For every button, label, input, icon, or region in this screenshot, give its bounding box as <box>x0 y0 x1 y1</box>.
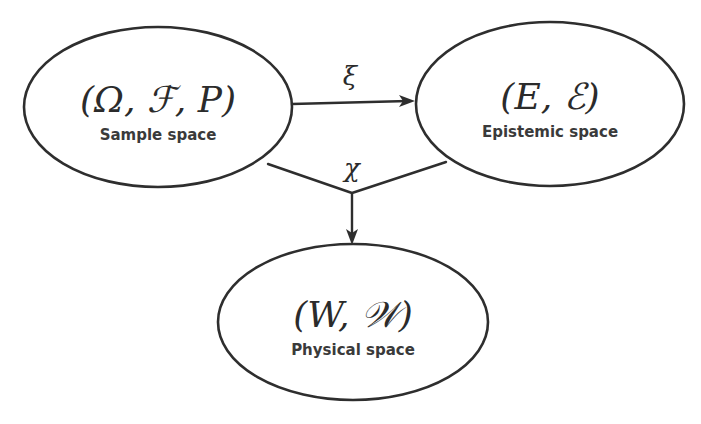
node-physical-space[interactable]: (W, 𝒲) Physical space <box>218 244 488 400</box>
edge-chi-label: χ <box>342 153 362 183</box>
node-caption-label: Physical space <box>291 341 415 359</box>
node-math-label: (W, 𝒲) <box>293 294 413 335</box>
edge-xi[interactable]: ξ <box>292 61 415 107</box>
node-math-label: (Ω, ℱ, P) <box>80 79 236 120</box>
node-epistemic-space[interactable]: (E, ℰ) Epistemic space <box>416 22 684 186</box>
edge-xi-line <box>292 101 408 104</box>
node-math-label: (E, ℰ) <box>500 76 599 117</box>
node-caption-label: Sample space <box>100 126 217 144</box>
node-sample-space[interactable]: (Ω, ℱ, P) Sample space <box>24 27 292 187</box>
node-caption-label: Epistemic space <box>482 123 618 141</box>
edge-chi[interactable]: χ <box>268 153 446 245</box>
edge-xi-label: ξ <box>343 61 359 91</box>
diagram-canvas: (Ω, ℱ, P) Sample space (E, ℰ) Epistemic … <box>0 0 701 424</box>
diagram-svg: (Ω, ℱ, P) Sample space (E, ℰ) Epistemic … <box>0 0 701 424</box>
